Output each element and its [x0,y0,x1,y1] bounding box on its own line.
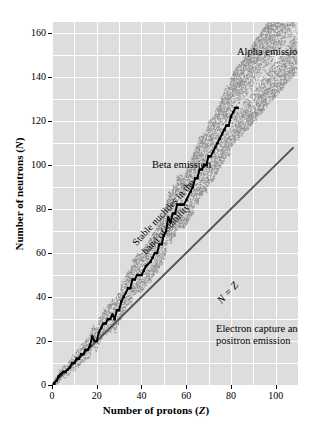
x-axis-tick-label: 40 [126,391,156,401]
x-axis-tick-label: 20 [82,391,112,401]
y-axis-title: Number of neutrons (N) [13,79,25,309]
x-axis-title: Number of protons (Z) [0,404,312,416]
y-axis-title-symbol: N [13,141,25,149]
y-axis-title-paren-close: ) [13,138,25,142]
x-axis-tick-label: 60 [171,391,201,401]
x-axis-tick-mark [97,385,98,389]
x-axis-tick-mark [52,385,53,389]
y-axis-title-paren-open: ( [13,149,25,155]
x-axis-title-paren-close: ) [205,404,209,416]
x-axis: 020406080100 [0,0,312,430]
x-axis-tick-mark [186,385,187,389]
x-axis-tick-label: 100 [261,391,291,401]
x-axis-tick-mark [276,385,277,389]
x-axis-tick-mark [231,385,232,389]
x-axis-title-text: Number of protons [103,404,192,416]
x-axis-tick-mark [141,385,142,389]
y-axis-title-text: Number of neutrons [13,156,25,251]
nuclide-stability-chart: Alpha emission Beta emission Electron ca… [0,0,312,430]
x-axis-tick-label: 0 [37,391,67,401]
x-axis-tick-label: 80 [216,391,246,401]
